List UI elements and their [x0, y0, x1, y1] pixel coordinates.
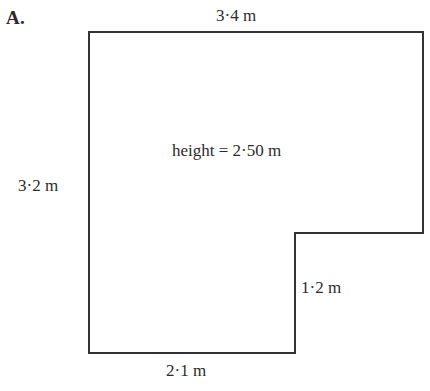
- dimension-label-bottom: 2·1 m: [166, 362, 206, 379]
- dimension-label-top: 3·4 m: [216, 7, 256, 24]
- dimension-label-notch-vertical: 1·2 m: [301, 279, 341, 296]
- l-shape-outline: [0, 0, 430, 391]
- prism-height-label: height = 2·50 m: [172, 142, 281, 159]
- figure-panel: A. 3·4 m 3·2 m 2·1 m 1·2 m height = 2·50…: [0, 0, 430, 391]
- dimension-label-left: 3·2 m: [18, 177, 58, 194]
- l-shape-polygon: [89, 32, 423, 353]
- item-letter-label: A.: [6, 8, 25, 27]
